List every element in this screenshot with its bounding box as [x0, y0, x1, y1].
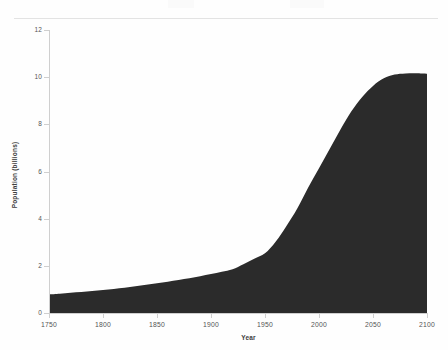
x-tick-label: 2000 [299, 321, 339, 328]
x-tick-mark [103, 313, 104, 318]
x-tick-mark [265, 313, 266, 318]
x-axis-title: Year [0, 334, 448, 341]
x-tick-label: 1950 [245, 321, 285, 328]
population-area-series [0, 0, 448, 350]
x-tick-mark [211, 313, 212, 318]
x-tick-label: 1900 [191, 321, 231, 328]
y-tick-label: 8 [20, 120, 42, 127]
y-axis-title: Population (billions) [11, 120, 18, 230]
y-tick-mark [44, 266, 49, 267]
x-tick-mark [373, 313, 374, 318]
y-tick-mark [44, 124, 49, 125]
y-tick-mark [44, 172, 49, 173]
y-tick-mark [44, 219, 49, 220]
x-tick-mark [49, 313, 50, 318]
x-tick-label: 1750 [29, 321, 69, 328]
y-tick-mark [44, 77, 49, 78]
x-tick-mark [157, 313, 158, 318]
y-tick-label: 10 [20, 73, 42, 80]
y-tick-label: 2 [20, 262, 42, 269]
y-axis-line [49, 30, 50, 314]
scanned-page: 024681012 175018001850190019502000205021… [0, 0, 448, 350]
x-tick-mark [319, 313, 320, 318]
y-tick-label: 0 [20, 309, 42, 316]
x-tick-label: 2100 [407, 321, 447, 328]
x-axis-line [49, 313, 428, 314]
y-tick-mark [44, 30, 49, 31]
x-tick-label: 1850 [137, 321, 177, 328]
x-tick-label: 1800 [83, 321, 123, 328]
y-tick-label: 6 [20, 168, 42, 175]
x-tick-mark [427, 313, 428, 318]
population-area-chart: 024681012 175018001850190019502000205021… [0, 0, 448, 350]
x-tick-label: 2050 [353, 321, 393, 328]
y-tick-label: 12 [20, 26, 42, 33]
y-tick-label: 4 [20, 215, 42, 222]
